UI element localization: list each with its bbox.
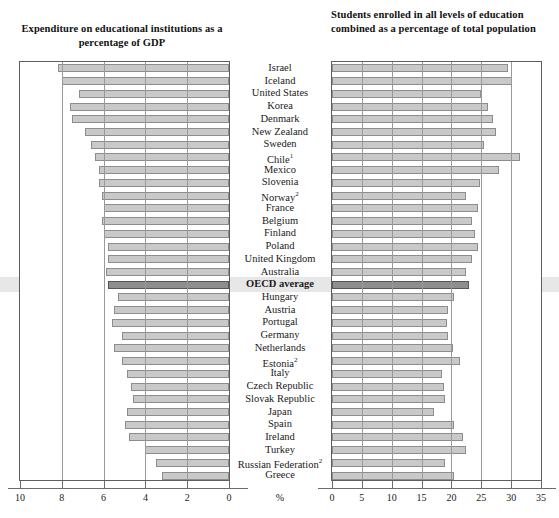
left-chart-plot-area <box>19 61 230 481</box>
bar <box>332 395 445 403</box>
axis-tick-label: 30 <box>498 492 524 503</box>
bar <box>114 344 229 352</box>
bar <box>332 306 448 314</box>
gridline <box>392 62 393 480</box>
bar <box>332 319 447 327</box>
bar <box>106 268 229 276</box>
axis-tick <box>362 481 363 488</box>
bar <box>72 115 229 123</box>
axis-tick <box>451 481 452 488</box>
gridline <box>511 62 512 480</box>
bar <box>162 472 229 480</box>
country-label-column: IsraelIcelandUnited StatesKoreaDenmarkNe… <box>231 61 331 481</box>
country-label: Denmark <box>231 113 329 124</box>
country-label: United Kingdom <box>231 253 329 264</box>
bar <box>332 192 466 200</box>
bar <box>332 128 496 136</box>
bar <box>332 421 454 429</box>
country-label: Greece <box>231 469 329 480</box>
country-label: Korea <box>231 100 329 111</box>
country-label: Russian Federation2 <box>231 456 329 470</box>
country-label: OECD average <box>231 278 329 289</box>
bar <box>156 459 229 467</box>
bar <box>332 243 478 251</box>
left-bar-rows <box>20 62 229 480</box>
axis-tick <box>541 481 542 488</box>
country-label: United States <box>231 87 329 98</box>
country-label: Hungary <box>231 291 329 302</box>
bar <box>122 357 229 365</box>
axis-tick-label: 6 <box>91 492 117 503</box>
figure-container: Expenditure on educational institutions … <box>0 0 559 518</box>
bar <box>332 408 434 416</box>
bar <box>332 370 442 378</box>
chart-title-right: Students enrolled in all levels of educa… <box>331 8 547 35</box>
country-label: Australia <box>231 266 329 277</box>
bar <box>332 293 454 301</box>
axis-tick-label: 4 <box>132 492 158 503</box>
bar <box>332 446 466 454</box>
country-label: Mexico <box>231 164 329 175</box>
axis-tick-label: 0 <box>319 492 345 503</box>
country-label: Norway2 <box>231 189 329 203</box>
bar <box>118 293 229 301</box>
axis-tick-label: 15 <box>409 492 435 503</box>
bar <box>122 332 229 340</box>
bar <box>332 179 480 187</box>
bar <box>332 459 445 467</box>
country-label: Finland <box>231 227 329 238</box>
bar <box>332 90 481 98</box>
country-label: Spain <box>231 418 329 429</box>
axis-tick-label: 8 <box>49 492 75 503</box>
bar <box>332 332 448 340</box>
bar <box>108 255 229 263</box>
bar <box>332 357 460 365</box>
gridline <box>145 62 146 480</box>
bar <box>129 433 229 441</box>
axis-tick <box>481 481 482 488</box>
bar <box>108 243 229 251</box>
bar <box>99 179 229 187</box>
country-label: Czech Republic <box>231 380 329 391</box>
right-axis-line <box>318 488 556 489</box>
axis-tick-label: 20 <box>438 492 464 503</box>
axis-tick <box>392 481 393 488</box>
percent-axis-label: % <box>268 492 292 503</box>
country-label: France <box>231 202 329 213</box>
country-label: Slovak Republic <box>231 393 329 404</box>
chart-title-left: Expenditure on educational institutions … <box>14 22 230 49</box>
bar <box>102 192 229 200</box>
bar <box>114 306 229 314</box>
bar <box>127 370 229 378</box>
gridline <box>187 62 188 480</box>
bar <box>332 141 484 149</box>
bar <box>127 408 229 416</box>
country-label: Sweden <box>231 138 329 149</box>
footnote-marker: 2 <box>294 356 298 364</box>
bar <box>104 204 229 212</box>
country-label: Ireland <box>231 431 329 442</box>
country-label: Japan <box>231 406 329 417</box>
bar <box>102 217 229 225</box>
footnote-marker: 2 <box>319 457 323 465</box>
country-label: Italy <box>231 367 329 378</box>
axis-tick-label: 0 <box>216 492 242 503</box>
country-label: Belgium <box>231 215 329 226</box>
bar <box>133 395 229 403</box>
axis-tick <box>62 481 63 488</box>
axis-tick <box>511 481 512 488</box>
footnote-marker: 1 <box>290 152 294 160</box>
axis-tick-label: 2 <box>174 492 200 503</box>
axis-tick-label: 10 <box>7 492 33 503</box>
axis-tick <box>145 481 146 488</box>
axis-tick <box>422 481 423 488</box>
country-label: Israel <box>231 62 329 73</box>
axis-tick-label: 25 <box>468 492 494 503</box>
country-label: Portugal <box>231 316 329 327</box>
country-label: Austria <box>231 304 329 315</box>
gridline <box>62 62 63 480</box>
country-label: Poland <box>231 240 329 251</box>
bar <box>332 383 444 391</box>
country-label: Chile1 <box>231 151 329 165</box>
bar <box>332 153 520 161</box>
